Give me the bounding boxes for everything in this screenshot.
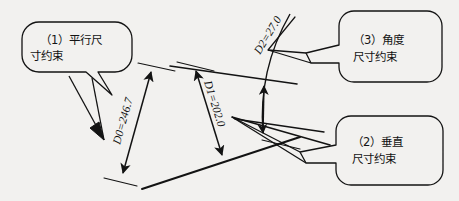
callout-parallel-line1: （1）平行尺 (40, 33, 103, 47)
callout-vertical-line2: 尺寸约束 (352, 152, 397, 166)
callout-vertical-line1: （2）垂直 (352, 135, 403, 149)
callout-angle-line2: 尺寸约束 (353, 50, 398, 64)
callout-parallel-line2: 寸约束 (30, 49, 64, 63)
callout-angle-line1: （3）角度 (353, 33, 405, 47)
dimension-constraint-diagram: D0=246.7 D1=202.0 D2=27.0 （1）平行尺 寸约束 （3）… (0, 0, 459, 201)
dimension-arc-d2-arrow-upper (263, 86, 264, 133)
